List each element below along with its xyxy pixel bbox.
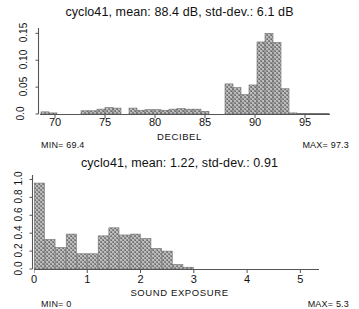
x-axis-tick-label: 0 <box>31 273 37 285</box>
histogram-bar <box>113 108 121 114</box>
x-axis-tick-label: 95 <box>299 116 311 128</box>
max-value-decibel: MAX= 97.3 <box>302 140 349 150</box>
x-axis-tick-label: 5 <box>297 273 303 285</box>
histogram-panel-exposure: cyclo41, mean: 1.22, std-dev.: 0.91 0.00… <box>0 151 359 302</box>
histogram-bar <box>193 109 201 114</box>
y-axis-tick-label: 1.0 <box>13 172 24 186</box>
histogram-bar <box>145 110 153 114</box>
histogram-bar <box>41 112 49 114</box>
x-axis-tick-label: 80 <box>149 116 161 128</box>
histogram-bar <box>297 113 305 114</box>
x-axis-tick-label: 70 <box>49 116 61 128</box>
y-axis <box>28 175 34 271</box>
histogram-bar <box>56 248 66 269</box>
histogram-bar <box>183 267 193 269</box>
histogram-bar <box>185 109 193 114</box>
x-axis-title-exposure: SOUND EXPOSURE <box>0 287 359 298</box>
histogram-bar <box>97 109 105 114</box>
histogram-bar <box>161 110 169 114</box>
y-axis-tick-label: 0.0 <box>13 262 24 276</box>
histogram-bar <box>265 33 273 114</box>
y-axis-tick-label: 0.2 <box>13 244 24 258</box>
histogram-bar <box>49 113 57 114</box>
x-axis-tick-label: 4 <box>244 273 250 285</box>
y-axis-tick-label: 0.8 <box>13 190 24 204</box>
histogram-bar <box>88 254 98 269</box>
histogram-bar <box>289 113 297 114</box>
min-value-decibel: MIN= 69.4 <box>41 140 85 150</box>
histogram-bar <box>177 109 185 114</box>
histogram-bar <box>201 111 209 114</box>
histogram-bar <box>81 111 89 114</box>
y-axis-tick-label: 0.6 <box>13 208 24 222</box>
histogram-bar <box>305 113 313 114</box>
histogram-bar <box>77 254 87 269</box>
histogram-bar <box>273 43 281 114</box>
histogram-bar <box>249 85 257 114</box>
histogram-panel-decibel: cyclo41, mean: 88.4 dB, std-dev.: 6.1 dB… <box>0 0 359 151</box>
x-axis-tick-label: 2 <box>137 273 143 285</box>
histogram-bars <box>41 33 329 114</box>
histogram-bar <box>137 110 145 114</box>
histogram-bar <box>105 108 113 114</box>
histogram-bars <box>34 183 193 269</box>
histogram-bar <box>66 234 76 269</box>
histogram-bar <box>153 110 161 114</box>
histogram-bar <box>109 228 119 269</box>
x-axis-tick-label: 3 <box>191 273 197 285</box>
min-value-exposure: MIN= 0 <box>41 299 71 309</box>
histogram-bar <box>321 113 329 114</box>
histogram-bar <box>225 84 233 114</box>
histogram-bar <box>89 111 97 114</box>
histogram-bar <box>233 88 241 114</box>
y-axis-tick-labels-decibel: 0.00.050.100.15 <box>6 28 22 114</box>
plot-area-decibel <box>40 28 330 114</box>
histogram-bar <box>141 239 151 269</box>
histogram-bar <box>169 109 177 114</box>
histogram-bar <box>45 239 55 269</box>
histogram-bar <box>120 235 130 269</box>
y-axis-tick-label: 0.05 <box>18 77 29 96</box>
plot-area-exposure <box>34 175 319 269</box>
y-axis <box>34 28 40 116</box>
y-axis-tick-label: 0.10 <box>18 50 29 69</box>
y-axis-tick-labels-exposure: 0.00.20.40.60.81.0 <box>4 175 20 269</box>
y-axis-tick-label: 0.4 <box>13 226 24 240</box>
histogram-bar <box>129 108 137 114</box>
x-axis-tick-label: 1 <box>84 273 90 285</box>
histogram-bar <box>130 234 140 269</box>
x-axis-tick-label: 75 <box>99 116 111 128</box>
histogram-bar <box>313 113 321 114</box>
y-axis-tick-label: 0.0 <box>15 107 26 121</box>
y-axis-tick-label: 0.15 <box>18 23 29 42</box>
chart-title-exposure: cyclo41, mean: 1.22, std-dev.: 0.91 <box>0 156 359 170</box>
x-axis-tick-label: 90 <box>249 116 261 128</box>
histogram-bar <box>241 95 249 114</box>
histogram-bar <box>257 42 265 114</box>
histogram-bar <box>34 183 44 269</box>
histogram-bar <box>151 248 161 269</box>
histogram-bar <box>281 89 289 114</box>
max-value-exposure: MAX= 5.3 <box>308 299 349 309</box>
x-axis-tick-label: 85 <box>199 116 211 128</box>
histogram-bar <box>162 251 172 269</box>
chart-title-decibel: cyclo41, mean: 88.4 dB, std-dev.: 6.1 dB <box>0 5 359 19</box>
histogram-bar <box>98 236 108 269</box>
histogram-bar <box>173 265 183 269</box>
